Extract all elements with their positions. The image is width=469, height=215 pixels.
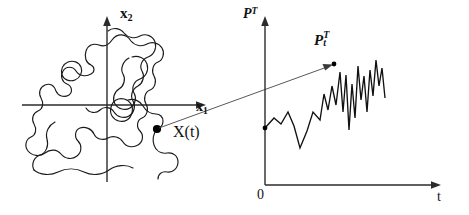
brownian-lower-sweep <box>34 166 133 175</box>
brownian-sample-path <box>26 35 164 159</box>
price-start-dot <box>263 126 268 131</box>
price-point-label: PTt <box>314 33 323 48</box>
x2-axis-label-subscript: 2 <box>128 12 133 23</box>
price-reference-dot <box>332 62 337 67</box>
brownian-inner-loop-c <box>111 99 133 122</box>
t-axis-arrowhead <box>431 181 441 189</box>
t-axis-label: t <box>437 190 441 204</box>
origin-label: 0 <box>257 188 264 202</box>
mapping-arrow-group <box>159 64 333 128</box>
price-point-label-stack: PTt <box>314 33 323 48</box>
price-sample-path <box>265 60 385 148</box>
price-point-label-subscript: t <box>323 38 326 48</box>
state-endpoint-dot <box>153 125 161 133</box>
brownian-inner-loop-b <box>114 56 148 109</box>
brownian-small-hook <box>61 61 81 81</box>
brownian-inner-loop-a <box>86 29 156 118</box>
x1-axis-label-base: x <box>196 99 203 114</box>
brownian-path-group <box>26 29 178 179</box>
diagram-canvas <box>0 0 469 215</box>
price-path-group <box>263 60 385 148</box>
x2-axis-arrowhead <box>103 16 111 26</box>
x2-axis-label: x2 <box>120 6 133 23</box>
x2-axis-label-base: x <box>120 5 128 21</box>
state-to-price-arrow-line <box>159 67 327 128</box>
price-axis-label: PT <box>243 7 257 21</box>
figure-root: x2 x1 X(t) PT PTt 0 t <box>0 0 469 215</box>
state-path-label: X(t) <box>173 124 200 140</box>
price-axis-label-superscript: T <box>252 6 258 16</box>
x1-axis-label-subscript: 1 <box>203 106 208 116</box>
price-point-label-base: P <box>314 32 323 48</box>
price-axis-label-base: P <box>243 6 252 21</box>
x1-axis-label: x1 <box>196 100 208 116</box>
state-to-price-arrow-head <box>323 64 334 71</box>
price-axis-arrowhead <box>261 16 269 26</box>
